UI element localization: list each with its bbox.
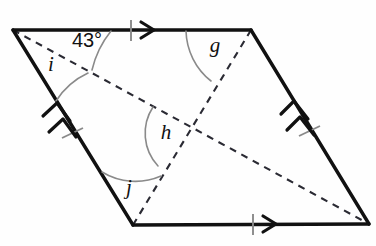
angle-arcs-group	[56, 31, 211, 181]
left-side	[13, 30, 133, 225]
right-side-arrow-icon-1	[281, 101, 308, 119]
tick-marks-group	[62, 20, 320, 235]
diagonal-a-c	[13, 30, 369, 224]
diagonal-d-b	[133, 30, 251, 225]
angle-i-label: i	[48, 52, 54, 76]
right-side	[251, 30, 369, 224]
angle-43-label: 43°	[72, 29, 102, 51]
bottom-side	[133, 224, 369, 225]
angle-labels-group: 43° i g h j	[48, 29, 220, 199]
angle-h-arc	[145, 107, 158, 166]
geometry-canvas: 43° i g h j	[0, 0, 376, 246]
arrowheads-group	[43, 22, 314, 232]
angle-i-arc	[56, 73, 88, 101]
angle-g-label: g	[210, 33, 221, 57]
geometry-diagram: 43° i g h j	[0, 0, 376, 246]
angle-j-label: j	[123, 175, 132, 199]
angle-h-label: h	[161, 120, 172, 144]
angle-g-arc	[186, 31, 211, 81]
